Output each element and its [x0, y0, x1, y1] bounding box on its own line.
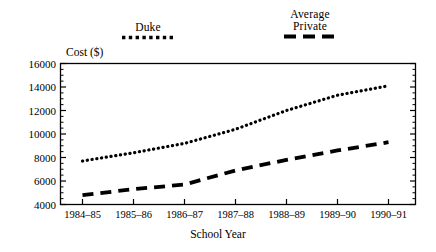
- chart-figure: Duke Average Private Cost ($) School Yea…: [0, 0, 436, 252]
- series-line-duke: [83, 86, 389, 161]
- y-axis-ticks: [61, 64, 416, 205]
- x-axis-ticks: [83, 199, 389, 205]
- plot-area: [0, 0, 436, 252]
- data-series-layer: [83, 86, 389, 195]
- axis-frame: [61, 64, 416, 205]
- series-line-average-private: [83, 142, 389, 195]
